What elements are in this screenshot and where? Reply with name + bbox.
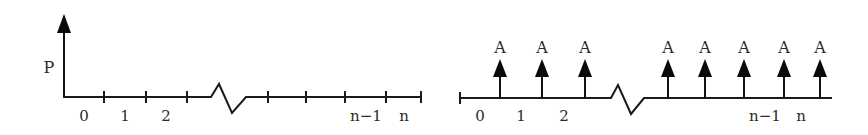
payment-arrow: A <box>698 38 712 98</box>
period-label-n-minus-1: n−1 <box>350 107 382 125</box>
period-label-n: n <box>399 107 409 125</box>
arrow-up-icon <box>535 59 549 77</box>
period-label-2: 2 <box>161 107 171 125</box>
left-cash-flow-diagram: P 0 1 2 n−1 n <box>44 14 421 125</box>
period-label-n-minus-1: n−1 <box>749 107 781 125</box>
arrow-up-icon <box>493 59 507 77</box>
cash-flow-diagrams: P 0 1 2 n−1 n A <box>0 0 868 135</box>
payment-label: A <box>777 38 790 57</box>
period-label-1: 1 <box>516 107 526 125</box>
payment-arrow: A <box>777 38 791 98</box>
payment-label: A <box>813 38 826 57</box>
payment-label: A <box>698 38 711 57</box>
period-label-0: 0 <box>79 107 89 125</box>
payment-label: A <box>493 38 506 57</box>
right-cash-flow-diagram: A A A A A A A <box>460 38 832 125</box>
payment-arrow: A <box>661 38 675 98</box>
p-arrow-head-icon <box>57 14 71 33</box>
payment-arrow: A <box>535 38 549 98</box>
payment-label: A <box>535 38 548 57</box>
arrow-up-icon <box>777 59 791 77</box>
payment-arrow: A <box>493 38 507 98</box>
payment-arrow: A <box>578 38 592 98</box>
payment-arrow: A <box>813 38 827 98</box>
p-label: P <box>44 58 55 77</box>
arrow-up-icon <box>737 59 751 77</box>
payment-arrow: A <box>737 38 751 98</box>
arrow-up-icon <box>661 59 675 77</box>
arrow-up-icon <box>578 59 592 77</box>
arrow-up-icon <box>813 59 827 77</box>
period-label-0: 0 <box>475 107 485 125</box>
arrow-up-icon <box>698 59 712 77</box>
payment-label: A <box>661 38 674 57</box>
period-label-2: 2 <box>559 107 569 125</box>
period-label-n: n <box>796 107 806 125</box>
payment-label: A <box>737 38 750 57</box>
period-label-1: 1 <box>120 107 130 125</box>
payment-label: A <box>578 38 591 57</box>
